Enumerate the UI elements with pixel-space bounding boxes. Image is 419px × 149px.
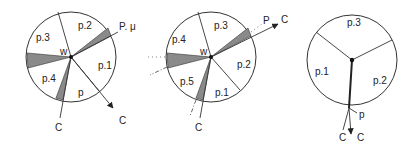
- middle-circle-diagram: p.3 p.4 p.5 p.1 p.2 w P C C: [148, 12, 288, 133]
- label-w: w: [59, 46, 68, 57]
- line-to-c-left: [343, 108, 349, 130]
- label-w: w: [199, 46, 208, 57]
- pie-diagram-figure: p.2 p.3 p.4 p p.1 w P. μ C C p.3 p.4 p.5…: [0, 0, 419, 149]
- label-p2: p.2: [78, 20, 92, 31]
- left-circle-diagram: p.2 p.3 p.4 p p.1 w P. μ C C: [26, 12, 136, 133]
- label-c-left: C: [339, 132, 346, 143]
- arrow-to-c-right: [349, 108, 351, 134]
- label-p1: p.1: [315, 66, 329, 77]
- center-node: [209, 55, 213, 59]
- label-p2: p.2: [237, 59, 251, 70]
- label-p: P: [263, 15, 270, 26]
- dashdot-bottom: [190, 100, 196, 116]
- dotted-extension-upper: [251, 24, 262, 32]
- label-c-bottom: C: [195, 122, 202, 133]
- label-c-arrow: C: [281, 14, 288, 25]
- label-p5: p.5: [180, 76, 194, 87]
- dashdot-left: [150, 67, 167, 75]
- label-p3: p.3: [36, 32, 50, 43]
- right-circle-diagram: p.3 p.1 p.2 p C C: [307, 15, 397, 143]
- label-p1: p.1: [98, 60, 112, 71]
- label-p4: p.4: [42, 73, 56, 84]
- label-c-arrow: C: [119, 115, 126, 126]
- label-c-right: C: [357, 132, 364, 143]
- label-p2: p.2: [373, 75, 387, 86]
- label-p-mu: P. μ: [119, 21, 136, 32]
- label-p3: p.3: [214, 20, 228, 31]
- label-p3: p.3: [347, 17, 361, 28]
- label-c-bottom: C: [55, 122, 62, 133]
- center-node: [350, 58, 354, 62]
- label-p: p: [78, 87, 84, 98]
- center-node: [69, 55, 73, 59]
- label-p1: p.1: [215, 87, 229, 98]
- label-p4: p.4: [172, 34, 186, 45]
- label-p: p: [359, 109, 365, 120]
- line-to-p: [349, 108, 357, 113]
